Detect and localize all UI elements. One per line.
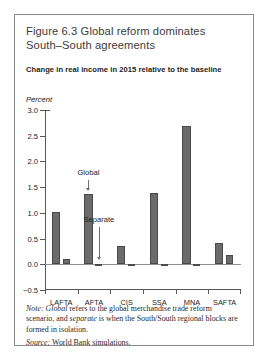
note-prefix: Note:	[26, 304, 44, 313]
y-axis-tick	[40, 136, 45, 137]
figure-source: Source: World Bank simulations.	[26, 338, 242, 348]
x-axis-tick	[240, 290, 241, 294]
annotation-global-arrowhead	[86, 188, 90, 191]
y-axis-tick-label: 1.5	[27, 183, 38, 192]
x-axis-tick	[78, 290, 79, 294]
figure-note: Note: Global refers to the global mercha…	[26, 304, 242, 335]
y-axis-tick-label: 0.0	[27, 260, 38, 269]
plot-inner: −0.50.00.51.01.52.02.53.0LAFTAAFTACISSSA…	[45, 110, 241, 290]
y-axis-tick	[40, 264, 45, 265]
bar-chart-plot: −0.50.00.51.01.52.02.53.0LAFTAAFTACISSSA…	[45, 110, 241, 290]
y-axis	[45, 110, 46, 290]
source-text: World Bank simulations.	[50, 338, 130, 347]
figure-container: Figure 6.3 Global reform dominates South…	[14, 14, 254, 346]
y-axis-tick	[40, 187, 45, 188]
y-axis-tick	[40, 213, 45, 214]
y-axis-top-cap	[45, 110, 50, 111]
y-axis-tick-label: 2.0	[27, 157, 38, 166]
y-axis-tick	[40, 161, 45, 162]
x-axis-tick	[45, 290, 46, 294]
bar-global-lafta	[52, 212, 60, 264]
bar-separate-cis	[128, 264, 135, 266]
annotation-separate-label: Separate	[83, 215, 114, 224]
bar-separate-safta	[226, 255, 233, 265]
x-axis-tick	[110, 290, 111, 294]
bar-separate-mna	[193, 264, 200, 266]
bar-separate-lafta	[63, 259, 70, 265]
y-axis-tick-label: 2.5	[27, 131, 38, 140]
x-axis-tick	[143, 290, 144, 294]
y-axis-tick-label: 3.0	[27, 106, 38, 115]
annotation-global-label: Global	[77, 168, 99, 177]
bar-global-ssa	[150, 193, 158, 264]
y-axis-unit-label: Percent	[26, 95, 52, 104]
bar-global-mna	[182, 126, 190, 264]
x-axis-tick	[176, 290, 177, 294]
source-prefix: Source:	[26, 338, 50, 347]
figure-title: Figure 6.3 Global reform dominates South…	[26, 24, 244, 52]
bar-separate-afta	[95, 264, 102, 266]
y-axis-tick-label: −0.5	[23, 286, 38, 295]
annotation-separate-arrowhead	[97, 257, 101, 260]
y-axis-tick	[40, 239, 45, 240]
zero-baseline	[45, 264, 241, 265]
y-axis-tick-label: 0.5	[27, 234, 38, 243]
figure-subtitle: Change in real income in 2015 relative t…	[26, 65, 246, 74]
annotation-separate-arrow	[99, 227, 100, 257]
bar-global-cis	[117, 246, 125, 264]
x-axis-tick	[208, 290, 209, 294]
note-italic-separate: separate	[70, 314, 97, 323]
y-axis-tick-label: 1.0	[27, 208, 38, 217]
bar-separate-ssa	[161, 264, 168, 266]
bar-global-afta	[84, 194, 92, 264]
bar-global-safta	[215, 243, 223, 265]
note-italic-global: Global	[46, 304, 68, 313]
